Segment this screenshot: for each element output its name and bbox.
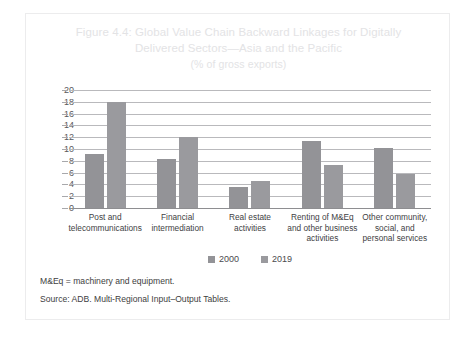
y-axis-tick xyxy=(62,114,68,115)
legend-label: 2019 xyxy=(272,254,292,264)
y-axis-tick xyxy=(62,196,68,197)
bar-2019 xyxy=(324,165,343,208)
bar-group xyxy=(286,90,358,208)
figure-notes: M&Eq = machinery and equipment. Source: … xyxy=(40,276,440,312)
bar-group xyxy=(69,90,141,208)
category-label-line: social, and xyxy=(353,223,437,234)
bar-2000 xyxy=(374,148,393,208)
category-label: Other community,social, andpersonal serv… xyxy=(353,212,437,244)
legend-item-2019[interactable]: 2019 xyxy=(261,254,292,264)
x-axis-category-labels: Post andtelecommunicationsFinancialinter… xyxy=(69,212,431,252)
y-axis-tick xyxy=(62,184,68,185)
bar-2019 xyxy=(396,174,415,208)
bar-2000 xyxy=(302,141,321,208)
y-axis-tick xyxy=(62,173,68,174)
bar-2000 xyxy=(157,159,176,208)
category-label-line: Other community, xyxy=(353,212,437,223)
bar-2000 xyxy=(85,154,104,208)
chart-legend: 20002019 xyxy=(69,254,431,264)
legend-swatch-icon xyxy=(208,256,215,263)
note-source: Source: ADB. Multi-Regional Input–Output… xyxy=(40,294,440,305)
y-axis-tick xyxy=(62,161,68,162)
bar-2019 xyxy=(179,137,198,208)
note-abbreviation: M&Eq = machinery and equipment. xyxy=(40,276,440,287)
bar-2019 xyxy=(107,102,126,208)
bar-group xyxy=(141,90,213,208)
y-axis-tick xyxy=(62,149,68,150)
bar-series-container xyxy=(69,90,431,208)
legend-swatch-icon xyxy=(261,256,268,263)
legend-item-2000[interactable]: 2000 xyxy=(208,254,239,264)
bar-2000 xyxy=(229,187,248,208)
figure-container: Figure 4.4: Global Value Chain Backward … xyxy=(25,13,450,320)
legend-label: 2000 xyxy=(219,254,239,264)
y-axis-tick xyxy=(62,102,68,103)
bar-2019 xyxy=(251,181,270,208)
bar-group xyxy=(359,90,431,208)
chart-plot-area: 02468101214161820 Post andtelecommunicat… xyxy=(26,14,451,321)
y-axis-tick xyxy=(62,137,68,138)
y-axis-tick xyxy=(62,125,68,126)
y-axis-tick xyxy=(62,208,68,209)
category-label-line: personal services xyxy=(353,233,437,244)
bar-group xyxy=(214,90,286,208)
y-axis-tick xyxy=(62,90,68,91)
x-axis-baseline xyxy=(69,208,431,209)
